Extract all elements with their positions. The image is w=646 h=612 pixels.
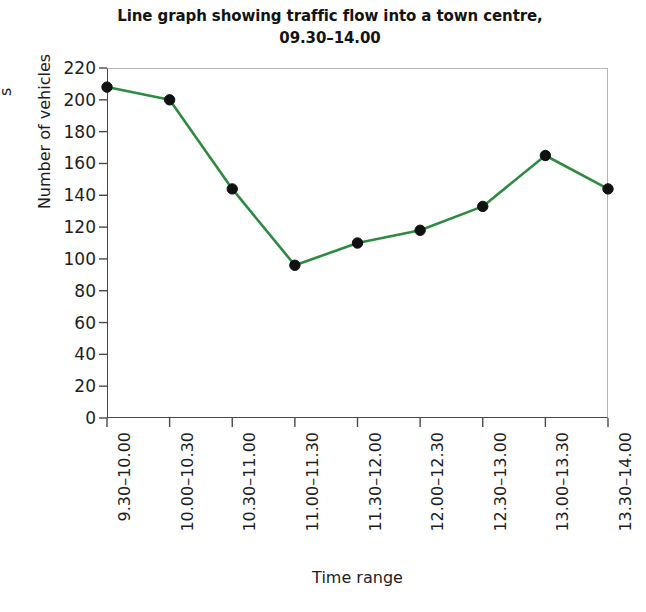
x-tick-label: 12.30–13.00 <box>491 432 510 532</box>
y-tick-label: 0 <box>44 408 96 428</box>
x-tick-label: 10.00–10.30 <box>178 432 197 532</box>
chart-title-line-2: 09.30–14.00 <box>70 28 590 50</box>
x-axis-title: Time range <box>107 568 608 587</box>
y-tick-label: 180 <box>44 122 96 142</box>
y-tick-label: 220 <box>44 58 96 78</box>
chart-title: Line graph showing traffic flow into a t… <box>70 6 590 50</box>
y-tick-label: 60 <box>44 313 96 333</box>
chart-figure: Line graph showing traffic flow into a t… <box>0 0 646 612</box>
y-tick-label: 140 <box>44 185 96 205</box>
edge-text-fragment: s <box>0 88 15 96</box>
plot-area <box>107 68 608 418</box>
y-tick-label: 160 <box>44 153 96 173</box>
chart-title-line-1: Line graph showing traffic flow into a t… <box>70 6 590 28</box>
x-tick-label: 13.30–14.00 <box>616 432 635 532</box>
y-tick-label: 80 <box>44 281 96 301</box>
y-tick-label: 20 <box>44 376 96 396</box>
x-tick-label: 13.00–13.30 <box>553 432 572 532</box>
x-tick-label: 12.00–12.30 <box>428 432 447 532</box>
x-tick-label: 11.00–11.30 <box>303 432 322 532</box>
y-tick-label: 100 <box>44 249 96 269</box>
y-tick-label: 200 <box>44 90 96 110</box>
y-tick-label: 120 <box>44 217 96 237</box>
y-tick-label: 40 <box>44 344 96 364</box>
x-tick-label: 9.30–10.00 <box>115 432 134 521</box>
x-tick-label: 11.30–12.00 <box>366 432 385 532</box>
x-tick-label: 10.30–11.00 <box>240 432 259 532</box>
